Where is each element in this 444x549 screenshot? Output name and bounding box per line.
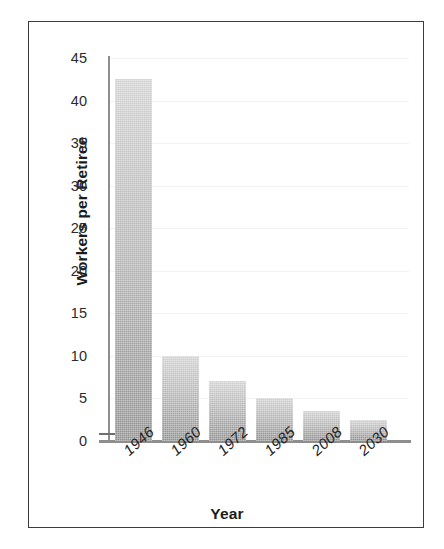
chart-figure-frame: Workers per Retiree 051015202530354045 1… bbox=[28, 21, 424, 528]
x-tick-label: 2030 bbox=[355, 423, 392, 459]
x-axis-tick-labels: 194619601972198520082030 bbox=[29, 22, 425, 529]
x-tick-label: 1960 bbox=[167, 423, 204, 459]
x-tick-label: 1946 bbox=[120, 423, 157, 459]
scan-artifact-text bbox=[10, 0, 310, 16]
plot-area: Workers per Retiree 051015202530354045 1… bbox=[29, 22, 425, 529]
x-axis-title: Year bbox=[29, 505, 425, 523]
x-tick-label: 1972 bbox=[214, 423, 251, 459]
x-tick-label: 2008 bbox=[308, 423, 345, 459]
x-tick-label: 1985 bbox=[261, 423, 298, 459]
